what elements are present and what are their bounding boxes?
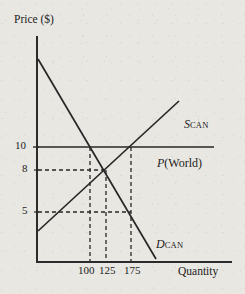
y-tick-label-10: 10: [15, 140, 26, 151]
x-tick-label-175: 175: [124, 265, 141, 276]
y-tick-label-5: 5: [22, 205, 28, 216]
demand-curve-subscript: CAN: [165, 240, 184, 250]
chart-canvas: [0, 0, 245, 294]
world-price-label: P(World): [157, 157, 202, 169]
demand-curve-label: DCAN: [156, 238, 183, 250]
y-axis-title: Price ($): [14, 14, 54, 26]
supply-curve-subscript: CAN: [190, 120, 209, 130]
demand-curve-symbol: D: [156, 237, 165, 251]
world-price-suffix: (World): [164, 156, 202, 170]
x-tick-label-125: 125: [99, 265, 116, 276]
x-axis-title: Quantity: [178, 266, 218, 278]
y-tick-label-8: 8: [22, 163, 28, 174]
supply-curve-label: SCAN: [184, 118, 209, 130]
x-tick-label-100: 100: [78, 265, 95, 276]
demand-curve: [38, 59, 156, 259]
supply-demand-chart: Price ($) 10 8 5 100 125 175 Quantity SC…: [0, 0, 245, 294]
